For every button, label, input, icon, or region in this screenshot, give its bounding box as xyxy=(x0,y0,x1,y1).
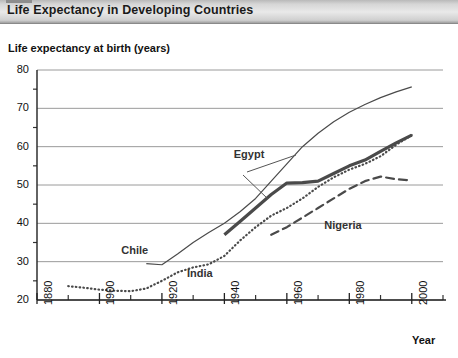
y-tick-label: 50 xyxy=(5,178,29,190)
x-tick-label: 1920 xyxy=(167,281,179,305)
y-tick-label: 60 xyxy=(5,140,29,152)
series-label-chile: Chile xyxy=(121,244,148,256)
x-tick-label: 2000 xyxy=(417,281,429,305)
series-paths xyxy=(68,87,412,291)
y-tick-label: 80 xyxy=(5,63,29,75)
y-tick-label: 70 xyxy=(5,101,29,113)
x-tick-label: 1980 xyxy=(354,281,366,305)
egypt-leader-lines xyxy=(243,155,296,199)
axis-minor-ticks xyxy=(33,89,443,300)
y-tick-label: 20 xyxy=(5,293,29,305)
x-tick-label: 1880 xyxy=(42,281,54,305)
grid-lines xyxy=(37,70,443,300)
x-tick-label: 1940 xyxy=(229,281,241,305)
y-tick-label: 40 xyxy=(5,216,29,228)
series-label-egypt: Egypt xyxy=(234,148,265,160)
series-label-nigeria: Nigeria xyxy=(324,219,361,231)
y-tick-label: 30 xyxy=(5,255,29,267)
x-tick-label: 1960 xyxy=(292,281,304,305)
series-label-india: India xyxy=(187,267,213,279)
series-line-chile xyxy=(146,87,411,265)
x-tick-label: 1900 xyxy=(104,281,116,305)
